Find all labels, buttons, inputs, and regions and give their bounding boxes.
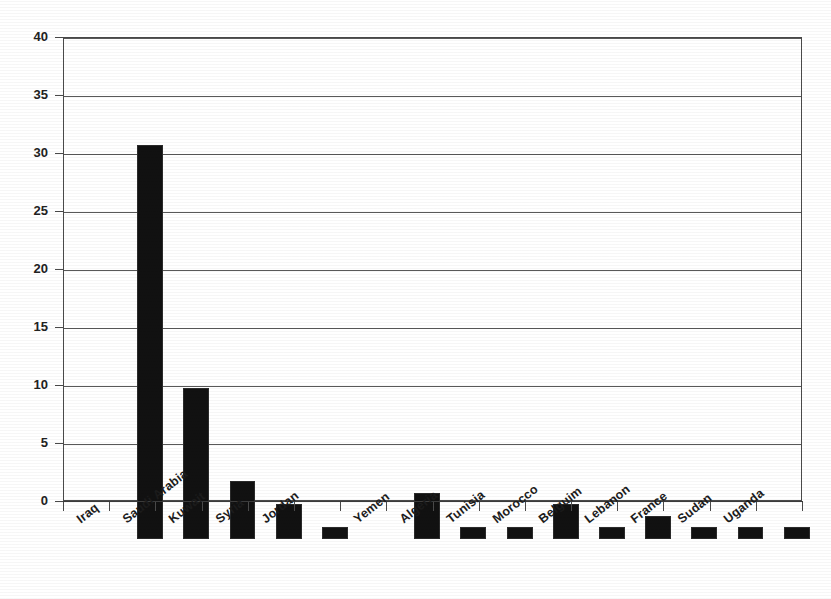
bar-chart-figure: 0510152025303540 IraqSaudi ArabiaKuwaitS… (0, 0, 831, 599)
x-axis-category-label: Uganda (721, 486, 767, 526)
x-axis-category-label: Syria (213, 496, 247, 526)
x-axis-category-label: Morocco (490, 482, 541, 526)
x-axis-category-label: France (628, 489, 670, 526)
x-axis-category-label: Jordan (259, 489, 301, 526)
x-axis-category-label: Algeria (397, 488, 440, 526)
x-axis-category-label: Iraq (74, 500, 101, 526)
x-axis-category-label: Tunisia (444, 488, 487, 526)
x-axis-category-label: Belguim (536, 484, 585, 526)
x-axis-category-label: Kuwait (166, 489, 208, 526)
x-axis-category-label: Yemen (351, 490, 392, 526)
x-axis-category-labels: IraqSaudi ArabiaKuwaitSyriaJordanYemenAl… (0, 0, 831, 599)
x-axis-category-label: Sudan (675, 491, 715, 526)
x-axis-category-label: Lebanon (582, 482, 633, 526)
